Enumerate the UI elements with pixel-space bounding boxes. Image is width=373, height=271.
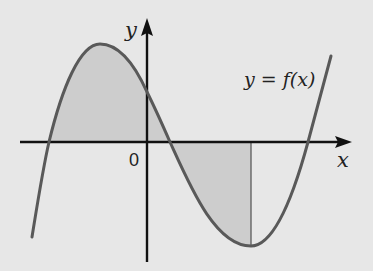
cubic-graph: y x 0 y = f(x) bbox=[0, 0, 373, 271]
graph-figure: y x 0 y = f(x) bbox=[0, 0, 373, 271]
shaded-region-positive bbox=[49, 44, 170, 142]
function-label: y = f(x) bbox=[243, 68, 315, 90]
x-axis-label: x bbox=[337, 148, 349, 172]
origin-label: 0 bbox=[129, 150, 139, 170]
y-axis-label: y bbox=[124, 18, 138, 42]
shaded-region-negative bbox=[170, 142, 251, 246]
